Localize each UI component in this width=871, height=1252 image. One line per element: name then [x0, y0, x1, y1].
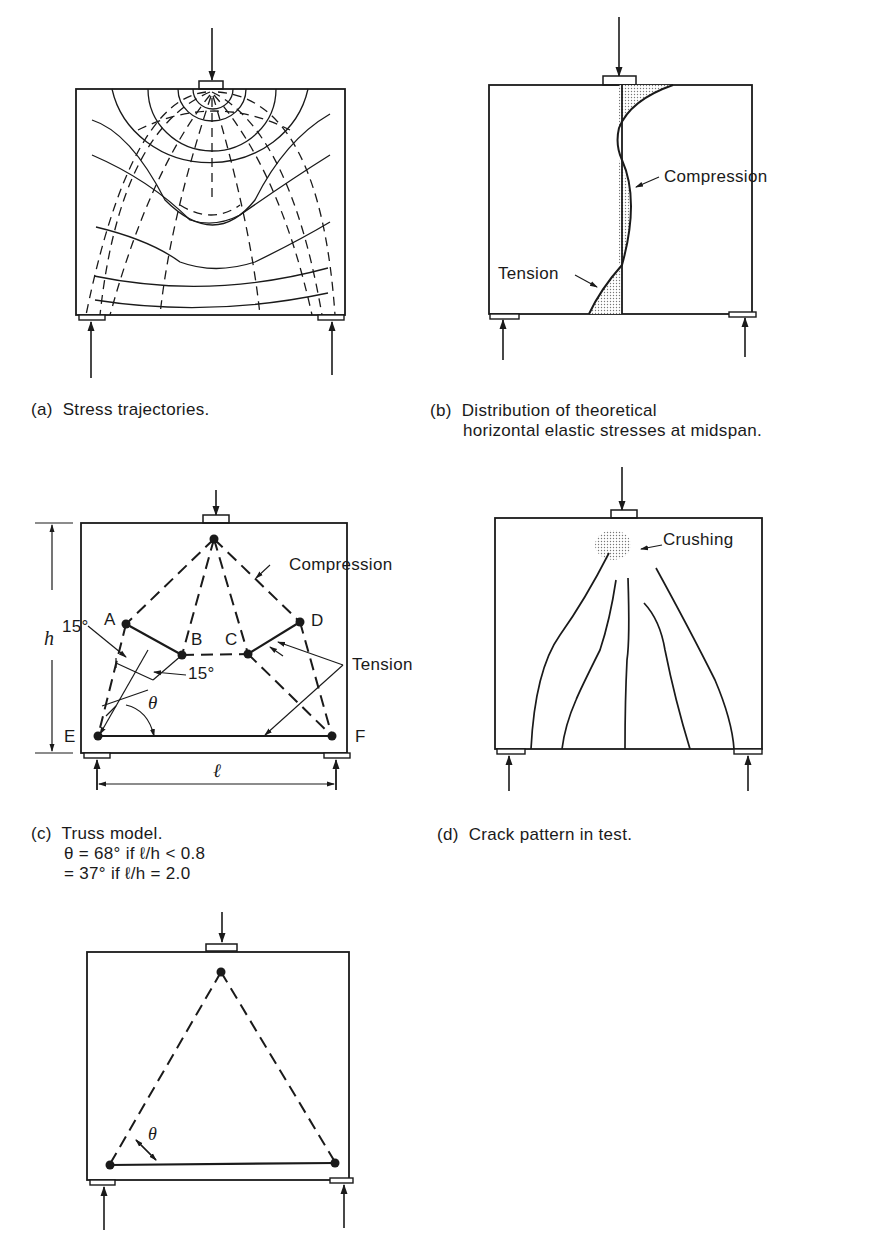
- theta-label-c: θ: [148, 692, 158, 714]
- height-label-h: h: [44, 627, 54, 650]
- caption-c-text: Truss model.: [61, 824, 162, 843]
- caption-b-line1: Distribution of theoretical: [462, 401, 657, 420]
- label-tension-c: Tension: [352, 655, 413, 675]
- caption-a-tag: (a): [31, 400, 53, 419]
- panel-b-midspan-stress: [489, 17, 756, 360]
- node-label-d: D: [311, 611, 324, 631]
- span-label-l: ℓ: [213, 760, 221, 782]
- node-label-f: F: [355, 727, 366, 747]
- label-crushing: Crushing: [663, 530, 733, 550]
- caption-c: (c) Truss model. θ = 68° if ℓ/h < 0.8 = …: [31, 824, 205, 884]
- node-label-c: C: [225, 630, 238, 650]
- caption-b: (b) Distribution of theoretical horizont…: [430, 401, 762, 441]
- panel-d-crack-pattern: [495, 467, 762, 791]
- label-tension-b: Tension: [498, 264, 559, 284]
- node-label-a: A: [104, 610, 116, 630]
- caption-d-text: Crack pattern in test.: [469, 825, 632, 844]
- caption-a: (a) Stress trajectories.: [31, 400, 210, 420]
- panel-e-simple-truss: [87, 912, 353, 1230]
- label-compression-b: Compression: [664, 167, 767, 187]
- angle-label-15-mid: 15°: [188, 664, 215, 684]
- caption-c-tag: (c): [31, 824, 52, 843]
- figure-canvas: [0, 0, 871, 1252]
- angle-label-15-top: 15°: [62, 617, 89, 637]
- caption-d-tag: (d): [437, 825, 459, 844]
- caption-c-eq2: = 37° if ℓ/h = 2.0: [31, 864, 205, 884]
- crushing-zone: [595, 530, 631, 560]
- caption-c-eq1: θ = 68° if ℓ/h < 0.8: [31, 844, 205, 864]
- caption-d: (d) Crack pattern in test.: [437, 825, 632, 845]
- theta-label-e: θ: [148, 1124, 157, 1145]
- caption-b-tag: (b): [430, 401, 452, 420]
- node-label-b: B: [191, 630, 203, 650]
- panel-a-stress-trajectories: [76, 28, 345, 378]
- caption-a-text: Stress trajectories.: [63, 400, 210, 419]
- caption-b-line2: horizontal elastic stresses at midspan.: [430, 421, 762, 441]
- label-compression-c: Compression: [289, 555, 392, 575]
- node-label-e: E: [64, 727, 76, 747]
